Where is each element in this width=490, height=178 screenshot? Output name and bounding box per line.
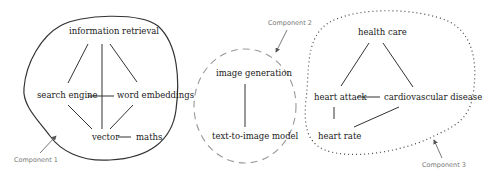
component-2-label: Component 2 — [268, 19, 312, 27]
node-image-generation: image generation — [216, 68, 292, 78]
component-2: image generation text-to-image model Com… — [194, 19, 312, 163]
component-1-label: Component 1 — [14, 156, 58, 164]
knowledge-graph-diagram: information retrieval search engine word… — [0, 0, 490, 178]
component-1-arrow-icon — [40, 136, 56, 153]
component-3-arrow-icon — [434, 140, 442, 158]
node-maths: maths — [136, 132, 162, 142]
component-2-arrow-icon — [276, 30, 287, 52]
node-heart-attack: heart attack — [314, 92, 367, 102]
node-information-retrieval: information retrieval — [69, 26, 159, 36]
node-health-care: health care — [358, 27, 407, 37]
component-3-label: Component 3 — [422, 161, 466, 169]
component-1: information retrieval search engine word… — [14, 16, 194, 164]
node-text-to-image-model: text-to-image model — [212, 131, 299, 141]
node-search-engine: search engine — [37, 90, 98, 100]
node-word-embeddings: word embeddings — [117, 90, 194, 100]
component-3: health care heart attack cardiovascular … — [305, 11, 482, 169]
node-heart-rate: heart rate — [318, 131, 361, 141]
node-vector: vector — [91, 132, 120, 142]
node-cardiovascular-disease: cardiovascular disease — [384, 92, 482, 102]
